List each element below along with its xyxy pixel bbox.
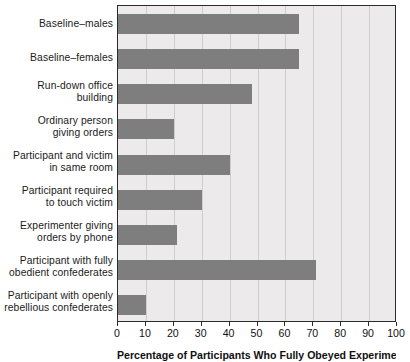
bar: [118, 49, 299, 69]
category-label-line: Experimenter giving: [20, 220, 113, 231]
x-axis-tick: [145, 322, 146, 326]
category-label: Participant with openly rebellious confe…: [0, 290, 113, 314]
x-axis-tick: [368, 322, 369, 326]
category-label-line: Participant required: [22, 185, 113, 196]
x-axis-tick: [229, 322, 230, 326]
category-label-line: Participant and victim: [13, 150, 113, 161]
bar: [118, 190, 202, 210]
x-axis-tick: [284, 322, 285, 326]
category-label-line: to touch victim: [46, 197, 113, 208]
category-label-line: obedient confederates: [9, 267, 113, 278]
x-axis-title: Percentage of Participants Who Fully Obe…: [117, 349, 396, 362]
category-label: Participant with fully obedient confeder…: [0, 255, 113, 279]
x-axis-tick: [201, 322, 202, 326]
gridline: [369, 6, 370, 321]
x-axis-tick: [340, 322, 341, 326]
category-label: Baseline–females: [0, 52, 113, 64]
x-axis-tick: [173, 322, 174, 326]
bar: [118, 225, 177, 245]
x-axis-tick: [257, 322, 258, 326]
category-label-line: in same room: [49, 162, 113, 173]
category-label-line: Baseline–males: [39, 18, 113, 29]
category-label-line: Participant with openly: [8, 290, 113, 301]
category-label: Participant and victim in same room: [0, 150, 113, 174]
category-label-column: Baseline–males Baseline–females Run-down…: [0, 5, 113, 322]
category-label-line: building: [77, 92, 113, 103]
x-axis-tick: [312, 322, 313, 326]
bar: [118, 119, 174, 139]
category-label-line: Baseline–females: [30, 52, 113, 63]
category-label: Baseline–males: [0, 18, 113, 30]
plot-area: [117, 5, 396, 322]
category-label: Experimenter giving orders by phone: [0, 220, 113, 244]
x-axis-tick-label: 100: [376, 327, 410, 340]
bar: [118, 155, 230, 175]
category-label: Participant required to touch victim: [0, 185, 113, 209]
category-label-line: rebellious confederates: [4, 302, 113, 313]
bar: [118, 295, 146, 315]
bar: [118, 84, 252, 104]
category-label-line: Participant with fully: [20, 255, 113, 266]
category-label-line: Run-down office: [37, 80, 113, 91]
bar: [118, 14, 299, 34]
category-label-line: giving orders: [53, 127, 113, 138]
category-label: Run-down office building: [0, 80, 113, 104]
x-axis-tick: [117, 322, 118, 326]
x-axis-tick: [396, 322, 397, 326]
category-label-line: orders by phone: [37, 232, 113, 243]
category-label: Ordinary person giving orders: [0, 115, 113, 139]
gridline: [341, 6, 342, 321]
category-label-line: Ordinary person: [38, 115, 113, 126]
bar: [118, 260, 316, 280]
